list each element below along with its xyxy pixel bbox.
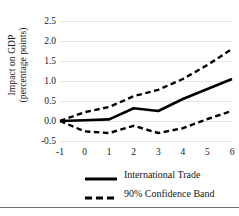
x-tick-label: 4	[180, 146, 185, 158]
y-tick-label: 0.0	[30, 116, 56, 126]
x-tick-label: 5	[205, 146, 210, 158]
y-tick-label: 2.5	[30, 16, 56, 26]
x-tick-label: 6	[230, 146, 235, 158]
legend-swatch-solid-icon	[85, 170, 117, 180]
y-axis-tick-labels: -0.50.00.51.01.52.02.5	[30, 15, 56, 147]
y-tick-label: 0.5	[30, 96, 56, 106]
x-tick-label: 0	[82, 146, 87, 158]
chart-legend: International Trade 90% Confidence Band	[0, 166, 239, 206]
plot-area: Impact on GDP (percentage points) -0.50.…	[0, 0, 239, 162]
legend-label-confidence-band: 90% Confidence Band	[124, 188, 215, 200]
chart-figure: Impact on GDP (percentage points) -0.50.…	[0, 0, 239, 216]
x-tick-label: 2	[131, 146, 136, 158]
legend-label-international-trade: International Trade	[124, 169, 200, 181]
legend-swatch-dashed-icon	[85, 189, 117, 199]
bottom-divider	[0, 207, 239, 208]
x-tick-label: 1	[107, 146, 112, 158]
legend-entry-confidence-band: 90% Confidence Band	[0, 185, 239, 203]
y-tick-label: 2.0	[30, 36, 56, 46]
y-tick-label: 1.0	[30, 76, 56, 86]
x-tick-label: 3	[156, 146, 161, 158]
x-axis-tick-labels: -10123456	[60, 146, 232, 160]
gridline	[60, 141, 232, 142]
y-axis-title-line-2: (percentage points)	[18, 3, 29, 127]
series-line	[60, 111, 232, 133]
x-tick-label: -1	[56, 146, 64, 158]
y-axis-title-line-1: Impact on GDP	[7, 3, 18, 127]
y-axis-title: Impact on GDP (percentage points)	[7, 3, 29, 127]
series-line	[60, 79, 232, 121]
series-lines	[60, 21, 232, 141]
y-tick-label: -0.5	[30, 136, 56, 146]
y-tick-label: 1.5	[30, 56, 56, 66]
legend-entry-international-trade: International Trade	[0, 166, 239, 184]
